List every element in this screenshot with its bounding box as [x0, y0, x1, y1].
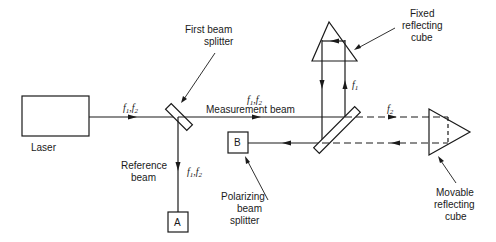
movable-cube-label-1: Movable [436, 187, 474, 198]
movable-cube-leader [441, 161, 456, 183]
first-splitter-label-2: splitter [204, 36, 234, 47]
first-splitter-leader [184, 53, 215, 99]
detector-b-label: B [234, 137, 241, 148]
fixed-arm-return-arrow-icon [320, 80, 325, 89]
fixed-cube-leader-arrow-icon [354, 44, 361, 50]
first-splitter-leader-arrow-icon [181, 96, 187, 103]
reference-beam-label-1: Reference [121, 160, 168, 171]
fixed-cube-label-3: cube [411, 32, 433, 43]
reference-beam-freq: f1,f2 [187, 166, 203, 179]
fixed-arm-outgoing-arrow-icon [343, 80, 348, 89]
reference-beam-arrow-icon [176, 162, 181, 171]
reference-beam-label-2: beam [131, 172, 156, 183]
fixed-cube-arrow-icon [330, 39, 339, 44]
movable-cube-label-3: cube [445, 211, 467, 222]
polarizing-splitter-label-3: splitter [230, 215, 260, 226]
polarizing-beam-splitter [314, 107, 361, 154]
measurement-beam-arrow-icon [252, 115, 261, 120]
fixed-cube-label-1: Fixed [410, 8, 434, 19]
movable-reflecting-cube [429, 109, 470, 155]
first-splitter-label-1: First beam [185, 24, 232, 35]
input-beam-label: f1,f2 [123, 102, 139, 115]
movable-cube-label-2: reflecting [434, 199, 475, 210]
movable-arm-freq: f2 [387, 103, 394, 116]
polarizing-splitter-label-2: beam [237, 203, 262, 214]
polarizing-splitter-label-1: Polarizing [221, 191, 265, 202]
detector-a-label: A [174, 217, 181, 228]
fixed-cube-leader [358, 28, 395, 48]
fixed-cube-label-2: reflecting [402, 20, 443, 31]
movable-cube-leader-arrow-icon [438, 156, 444, 163]
polarizing-splitter-leader-arrow-icon [245, 156, 250, 164]
interferometer-diagram: Laser f1,f2 Measurement beam f1,f2 First… [0, 0, 496, 242]
fixed-arm-freq: f1 [352, 79, 358, 92]
return-beam-arrow-icon [282, 141, 291, 146]
laser [22, 96, 89, 136]
movable-arm-return-arrow-icon [391, 141, 400, 146]
laser-label: Laser [31, 142, 57, 153]
input-beam-arrow-icon [128, 115, 137, 120]
